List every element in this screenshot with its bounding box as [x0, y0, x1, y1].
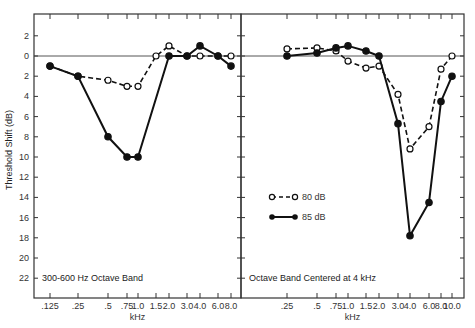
- x-tick-label: 2.0: [163, 301, 176, 311]
- open-circle-marker: [153, 53, 159, 59]
- series-80db: [284, 45, 455, 152]
- panel-annotation: Octave Band Centered at 4 kHz: [249, 273, 377, 283]
- x-tick-label: 8.0: [225, 301, 238, 311]
- filled-circle-marker: [333, 45, 339, 51]
- x-tick-label: 4.0: [194, 301, 207, 311]
- x-tick-label: 1.5: [360, 301, 373, 311]
- open-circle-marker: [426, 124, 432, 130]
- y-tick-label: 10: [19, 152, 29, 162]
- open-circle-marker: [449, 53, 455, 59]
- x-tick-label: 1.0: [342, 301, 355, 311]
- open-circle-marker: [345, 58, 351, 64]
- x-tick-label: 1.0: [132, 301, 145, 311]
- x-tick-label: 6.0: [423, 301, 436, 311]
- x-tick-label: 1.5: [150, 301, 163, 311]
- filled-circle-marker: [376, 53, 382, 59]
- filled-circle-marker: [449, 73, 455, 79]
- filled-circle-marker: [124, 154, 130, 160]
- filled-circle-marker: [47, 63, 53, 69]
- filled-circle-marker: [135, 154, 141, 160]
- filled-circle-marker: [105, 134, 111, 140]
- filled-circle-marker: [345, 43, 351, 49]
- y-tick-label: 12: [19, 172, 29, 182]
- open-circle-marker: [407, 146, 413, 152]
- open-circle-marker: [124, 83, 130, 89]
- series-85db: [47, 43, 234, 161]
- open-circle-marker: [363, 65, 369, 71]
- open-circle-marker: [105, 77, 111, 83]
- x-tick-label: .125: [41, 301, 59, 311]
- filled-circle-marker: [215, 53, 221, 59]
- y-axis-label: Threshold Shift (dB): [4, 110, 14, 190]
- open-circle-marker: [228, 53, 234, 59]
- left-panel: .125.25.5.751.01.52.03.04.06.08.0kHz300-…: [34, 14, 241, 322]
- x-tick-label: 3.0: [392, 301, 405, 311]
- x-tick-label: .75: [330, 301, 343, 311]
- x-axis-label: kHz: [130, 312, 146, 322]
- right-panel: .25.5.751.01.52.03.04.06.08.010.0kHzOcta…: [241, 14, 464, 322]
- x-tick-label: .5: [104, 301, 112, 311]
- filled-circle-marker: [228, 63, 234, 69]
- x-tick-label: .25: [281, 301, 294, 311]
- x-axis-label: kHz: [345, 312, 361, 322]
- filled-circle-marker: [284, 53, 290, 59]
- y-tick-label: 8: [24, 132, 29, 142]
- filled-circle-marker: [395, 120, 401, 126]
- y-tick-label: 16: [19, 213, 29, 223]
- legend: 80 dB85 dB: [269, 192, 325, 222]
- open-circle-marker: [284, 46, 290, 52]
- x-tick-label: 6.0: [212, 301, 225, 311]
- y-tick-label: 6: [24, 112, 29, 122]
- open-circle-marker: [166, 43, 172, 49]
- filled-circle-marker: [314, 50, 320, 56]
- series-85db: [284, 43, 455, 239]
- open-circle-marker: [197, 53, 203, 59]
- y-tick-label: 2: [24, 31, 29, 41]
- x-tick-label: 10.0: [443, 301, 461, 311]
- x-tick-label: 3.0: [181, 301, 194, 311]
- open-circle-marker: [438, 66, 444, 72]
- y-tick-label: 22: [19, 273, 29, 283]
- filled-circle-marker: [197, 43, 203, 49]
- threshold-shift-chart: .125.25.5.751.01.52.03.04.06.08.0kHz300-…: [0, 0, 475, 328]
- x-tick-label: 4.0: [404, 301, 417, 311]
- x-tick-label: .5: [313, 301, 321, 311]
- y-tick-label: 2: [24, 71, 29, 81]
- x-tick-label: .25: [72, 301, 85, 311]
- filled-circle-marker: [75, 73, 81, 79]
- legend-label-80db: 80 dB: [302, 192, 326, 202]
- y-tick-label: 14: [19, 192, 29, 202]
- open-circle-marker: [135, 83, 141, 89]
- filled-circle-marker: [184, 53, 190, 59]
- filled-circle-marker: [438, 98, 444, 104]
- legend-label-85db: 85 dB: [302, 212, 326, 222]
- filled-circle-marker: [407, 233, 413, 239]
- y-tick-label: 4: [24, 91, 29, 101]
- x-tick-label: 2.0: [373, 301, 386, 311]
- y-tick-label: 20: [19, 253, 29, 263]
- open-circle-marker: [395, 91, 401, 97]
- y-tick-label: 18: [19, 233, 29, 243]
- filled-circle-marker: [426, 199, 432, 205]
- y-tick-label: 0: [24, 51, 29, 61]
- filled-circle-marker: [363, 48, 369, 54]
- filled-circle-marker: [166, 53, 172, 59]
- panel-annotation: 300-600 Hz Octave Band: [42, 273, 143, 283]
